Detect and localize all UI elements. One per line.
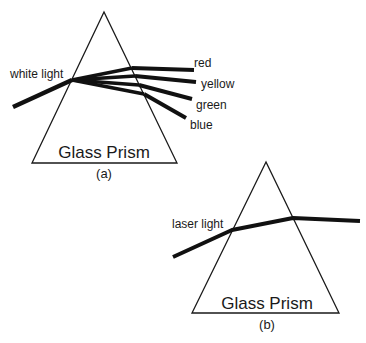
caption-a: (a)	[96, 166, 112, 181]
white-light-label: white light	[9, 67, 64, 81]
red-label: red	[194, 56, 211, 70]
red-output-ray	[132, 68, 194, 70]
glass-prism-label-b: Glass Prism	[221, 294, 313, 313]
panel-a: white light red yellow green blue Glass …	[9, 12, 235, 181]
caption-b: (b)	[259, 317, 275, 332]
panel-b: laser light Glass Prism (b)	[172, 162, 360, 332]
laser-light-label: laser light	[172, 217, 224, 231]
yellow-label: yellow	[201, 77, 235, 91]
green-label: green	[196, 98, 227, 112]
blue-label: blue	[190, 118, 213, 132]
white-light-incoming-ray	[13, 80, 72, 107]
prism-diagram: white light red yellow green blue Glass …	[0, 0, 366, 343]
glass-prism-label-a: Glass Prism	[58, 143, 150, 162]
yellow-output-ray	[135, 76, 196, 82]
